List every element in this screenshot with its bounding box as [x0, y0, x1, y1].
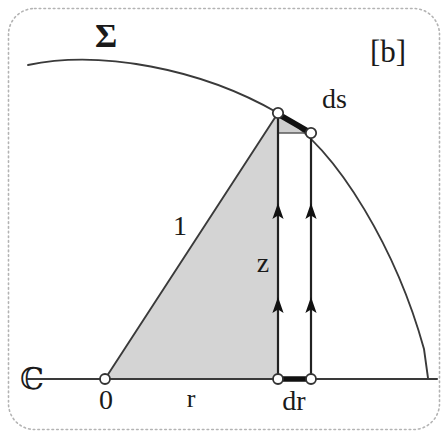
surface-node-left: [273, 108, 283, 118]
figure-panel-b: Σ [b] ds 1 z ℂ 0 r dr: [0, 0, 448, 438]
r-label: r: [187, 384, 196, 413]
surface-node-right: [306, 128, 316, 138]
panel-label: [b]: [370, 34, 406, 69]
complex-plane-label: ℂ: [20, 362, 44, 395]
one-label: 1: [173, 210, 187, 241]
origin-node: [100, 374, 110, 384]
z-label: z: [257, 247, 269, 278]
diagram-canvas: Σ [b] ds 1 z ℂ 0 r dr: [0, 0, 448, 438]
dr-label: dr: [282, 385, 306, 416]
sigma-label: Σ: [95, 17, 117, 54]
ds-label: ds: [322, 83, 347, 114]
base-node-right: [306, 374, 316, 384]
zero-label: 0: [99, 384, 113, 415]
base-node-left: [273, 374, 283, 384]
